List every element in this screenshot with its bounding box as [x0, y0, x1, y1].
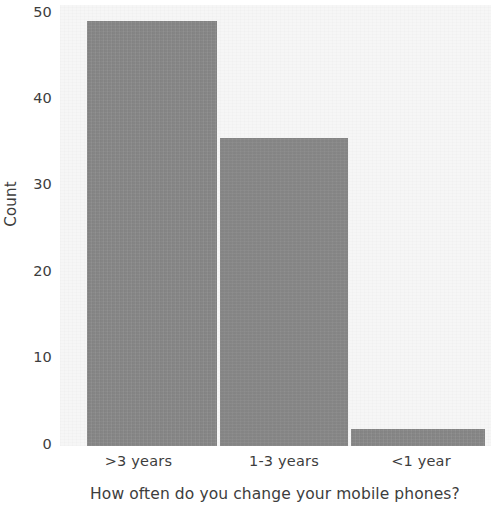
y-tick-label: 50: [6, 5, 52, 19]
x-tick-label: >3 years: [60, 452, 217, 470]
y-tick-label: 0: [6, 437, 52, 451]
y-tick-label: 30: [6, 177, 52, 191]
y-tick-label: 40: [6, 91, 52, 105]
y-tick-label: 20: [6, 264, 52, 278]
bar-lt-1-year: [351, 429, 485, 446]
plot-area: [60, 5, 491, 446]
bar-chart-figure: Count 50 40 30 20 10 0 >3 years 1-3 year…: [0, 0, 501, 521]
y-axis-tick-labels: 50 40 30 20 10 0: [0, 0, 52, 460]
x-tick-label: 1-3 years: [217, 452, 351, 470]
bar-series: [60, 5, 491, 446]
bar-gt-3-years: [87, 21, 217, 446]
x-tick-label: <1 year: [351, 452, 491, 470]
y-tick-label: 10: [6, 350, 52, 364]
x-axis-title: How often do you change your mobile phon…: [55, 484, 495, 504]
x-axis-tick-labels: >3 years 1-3 years <1 year: [60, 452, 491, 474]
bar-1-3-years: [220, 138, 348, 446]
